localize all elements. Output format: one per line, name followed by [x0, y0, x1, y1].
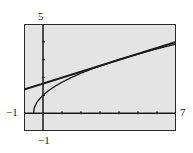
ymin-label: −1 [38, 135, 50, 146]
xmax-label: 7 [180, 107, 186, 118]
sqrt-curve [34, 44, 177, 113]
tangent-line [24, 42, 176, 90]
plot-area [24, 24, 176, 131]
ymax-label: 5 [38, 11, 44, 22]
xmin-label: −1 [6, 107, 18, 118]
